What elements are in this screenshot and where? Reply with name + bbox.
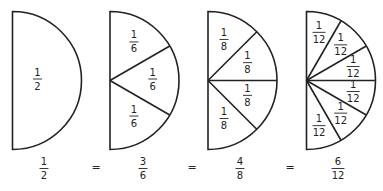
denominator: 8 bbox=[221, 41, 227, 52]
equals-sign: = bbox=[91, 161, 100, 174]
equals-sign: = bbox=[285, 161, 294, 174]
numerator: 1 bbox=[316, 20, 322, 31]
numerator: 4 bbox=[237, 156, 243, 167]
piece-label: 18 bbox=[243, 50, 252, 75]
numerator: 1 bbox=[221, 27, 227, 38]
piece-label: 18 bbox=[220, 27, 229, 52]
denominator: 8 bbox=[244, 64, 250, 75]
total-fraction-label: 12 bbox=[40, 156, 49, 181]
numerator: 1 bbox=[337, 101, 343, 112]
denominator: 8 bbox=[221, 120, 227, 131]
numerator: 1 bbox=[41, 156, 47, 167]
denominator: 2 bbox=[41, 170, 47, 181]
denominator: 12 bbox=[347, 93, 360, 104]
numerator: 1 bbox=[244, 50, 250, 61]
denominator: 12 bbox=[334, 46, 347, 57]
semicircle-outline bbox=[110, 12, 179, 150]
numerator: 1 bbox=[221, 106, 227, 117]
piece-label: 18 bbox=[243, 83, 252, 108]
semicircle-2ths bbox=[13, 12, 82, 150]
denominator: 6 bbox=[131, 43, 137, 54]
numerator: 1 bbox=[131, 29, 137, 40]
piece-label: 16 bbox=[130, 29, 139, 54]
total-fraction-label: 36 bbox=[139, 156, 148, 181]
numerator: 1 bbox=[150, 67, 156, 78]
semicircle-6ths bbox=[110, 12, 179, 150]
denominator: 12 bbox=[347, 68, 360, 79]
numerator: 1 bbox=[34, 67, 40, 78]
semicircle-outline bbox=[13, 12, 82, 150]
piece-label: 12 bbox=[33, 67, 42, 92]
equivalent-fractions-diagram: 1212161616361818181848112112112112112112… bbox=[0, 0, 383, 191]
denominator: 12 bbox=[334, 115, 347, 126]
denominator: 8 bbox=[237, 170, 243, 181]
numerator: 1 bbox=[337, 32, 343, 43]
semicircle-8ths bbox=[208, 12, 277, 150]
equals-sign: = bbox=[187, 161, 196, 174]
denominator: 6 bbox=[150, 81, 156, 92]
denominator: 12 bbox=[313, 34, 326, 45]
numerator: 1 bbox=[316, 113, 322, 124]
numerator: 3 bbox=[140, 156, 146, 167]
piece-label: 16 bbox=[130, 104, 139, 129]
denominator: 2 bbox=[34, 81, 40, 92]
denominator: 12 bbox=[313, 127, 326, 138]
denominator: 6 bbox=[140, 170, 146, 181]
piece-label: 18 bbox=[220, 106, 229, 131]
numerator: 6 bbox=[335, 156, 341, 167]
total-fraction-label: 48 bbox=[236, 156, 245, 181]
denominator: 12 bbox=[332, 170, 345, 181]
denominator: 6 bbox=[131, 118, 137, 129]
piece-label: 16 bbox=[148, 67, 157, 92]
total-fraction-label: 612 bbox=[332, 156, 345, 181]
numerator: 1 bbox=[350, 79, 356, 90]
numerator: 1 bbox=[350, 54, 356, 65]
numerator: 1 bbox=[244, 83, 250, 94]
numerator: 1 bbox=[131, 104, 137, 115]
denominator: 8 bbox=[244, 97, 250, 108]
